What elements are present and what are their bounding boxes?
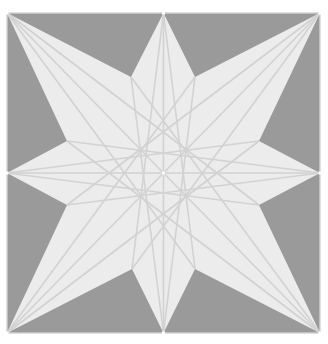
vertex-point — [6, 332, 9, 335]
vertex-point — [319, 172, 322, 175]
vertex-point — [6, 12, 9, 15]
star-diagram — [0, 0, 328, 344]
vertex-point — [6, 172, 9, 175]
vertex-point — [162, 172, 165, 175]
vertex-point — [319, 12, 322, 15]
vertex-point — [162, 12, 165, 15]
vertex-point — [162, 332, 165, 335]
vertex-point — [319, 332, 322, 335]
